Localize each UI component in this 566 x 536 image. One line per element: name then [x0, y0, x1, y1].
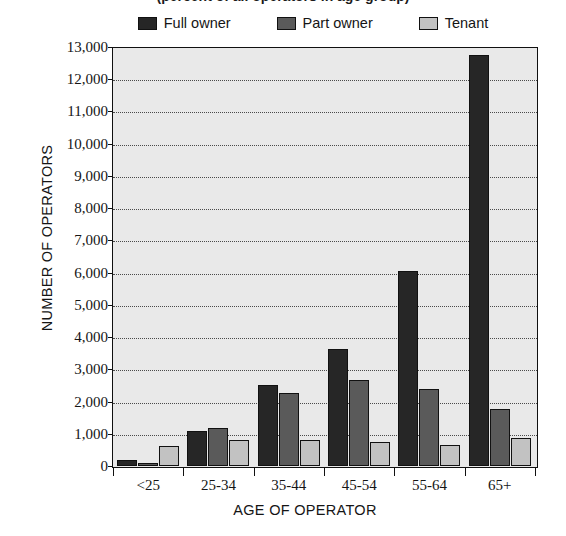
bar-tenant[interactable]: [370, 442, 390, 466]
x-axis-title: AGE OF OPERATOR: [95, 502, 515, 518]
y-axis-tick-label: 8,000: [38, 200, 108, 217]
bar-series-layer: [113, 48, 535, 466]
bar-full-owner[interactable]: [187, 431, 207, 466]
bar-full-owner[interactable]: [258, 385, 278, 466]
y-axis-tick-label: 10,000: [38, 135, 108, 152]
x-axis-tick-label: 65+: [460, 477, 540, 494]
bar-tenant[interactable]: [159, 446, 179, 466]
bar-full-owner[interactable]: [117, 460, 137, 466]
legend-swatch-icon: [419, 17, 438, 30]
legend-item-tenant[interactable]: Tenant: [419, 15, 489, 31]
bar-group-25-34: [183, 48, 253, 466]
x-axis-tick-mark: [394, 467, 395, 476]
x-axis-tick-label: 45-54: [319, 477, 399, 494]
bar-part-owner[interactable]: [419, 389, 439, 466]
x-axis-tick-mark: [254, 467, 255, 476]
x-axis-tick-label: 55-64: [390, 477, 470, 494]
y-axis-tick-label: 7,000: [38, 232, 108, 249]
y-axis-tick-label: 13,000: [38, 39, 108, 56]
bar-group-25: [113, 48, 183, 466]
y-axis-tick-label: 9,000: [38, 167, 108, 184]
bar-part-owner[interactable]: [208, 428, 228, 466]
legend-item-part-owner[interactable]: Part owner: [277, 15, 373, 31]
y-axis-tick-label: 11,000: [38, 103, 108, 120]
legend-label: Part owner: [303, 15, 373, 31]
bar-full-owner[interactable]: [469, 55, 489, 466]
bar-group-45-54: [324, 48, 394, 466]
legend-label: Full owner: [164, 15, 231, 31]
y-axis-tick-label: 5,000: [38, 296, 108, 313]
bar-part-owner[interactable]: [490, 409, 510, 466]
bar-full-owner[interactable]: [398, 271, 418, 466]
bar-full-owner[interactable]: [328, 349, 348, 466]
legend-item-full-owner[interactable]: Full owner: [138, 15, 231, 31]
x-axis-tick-mark: [183, 467, 184, 476]
y-axis-tick-label: 1,000: [38, 425, 108, 442]
x-axis-tick-label: 35-44: [249, 477, 329, 494]
y-axis-tick-label: 4,000: [38, 329, 108, 346]
x-axis-tick-label: 25-34: [179, 477, 259, 494]
x-axis-tick-mark: [465, 467, 466, 476]
bar-group-35-44: [254, 48, 324, 466]
bar-tenant[interactable]: [440, 445, 460, 466]
bar-tenant[interactable]: [511, 438, 531, 466]
legend-swatch-icon: [277, 17, 296, 30]
chart-title: (percent of all operators in age group): [0, 0, 566, 5]
y-axis-tick-label: 3,000: [38, 361, 108, 378]
x-axis-tick-mark: [324, 467, 325, 476]
bar-group-65: [465, 48, 535, 466]
y-axis-tick-label: 2,000: [38, 393, 108, 410]
y-axis-tick-label: 6,000: [38, 264, 108, 281]
bar-tenant[interactable]: [300, 440, 320, 466]
bar-part-owner[interactable]: [349, 380, 369, 466]
x-axis-tick-mark: [535, 467, 536, 476]
y-axis-tick-label: 0: [38, 458, 108, 475]
bar-part-owner[interactable]: [138, 463, 158, 466]
y-axis-tick-labels: 01,0002,0003,0004,0005,0006,0007,0008,00…: [34, 47, 108, 466]
legend-swatch-icon: [138, 17, 157, 30]
chart-title-cropped: (percent of all operators in age group): [0, 0, 566, 13]
legend-label: Tenant: [445, 15, 489, 31]
chart-legend: Full ownerPart ownerTenant: [0, 14, 566, 32]
y-axis-tick-label: 12,000: [38, 71, 108, 88]
x-axis-tick-label: <25: [108, 477, 188, 494]
chart-screenshot: (percent of all operators in age group) …: [0, 0, 566, 536]
bar-part-owner[interactable]: [279, 393, 299, 466]
bar-group-55-64: [394, 48, 464, 466]
x-axis-tick-mark: [113, 467, 114, 476]
bar-tenant[interactable]: [229, 440, 249, 466]
